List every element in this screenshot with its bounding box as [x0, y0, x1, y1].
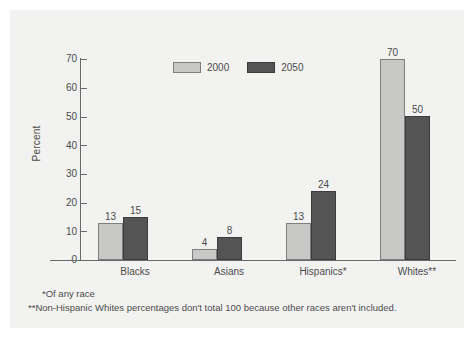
bar-whites-2050[interactable] — [405, 116, 430, 260]
bar-asians-2000[interactable] — [192, 249, 217, 261]
bar-value-asians-2000: 4 — [182, 237, 227, 248]
x-tick-label-whites: Whites** — [377, 266, 457, 277]
y-tick-label-70: 70 — [37, 54, 77, 64]
bar-value-blacks-2050: 15 — [113, 205, 158, 216]
bar-blacks-2000[interactable] — [98, 223, 123, 260]
x-tick-label-asians: Asians — [189, 266, 269, 277]
bar-value-hispanics-2050: 24 — [301, 179, 346, 190]
bar-value-hispanics-2000: 13 — [276, 211, 321, 222]
chart-figure: 2000 2050 Percent 70 60 50 40 30 20 10 0… — [10, 10, 464, 328]
y-tick-label-10: 10 — [37, 227, 77, 237]
bar-hispanics-2000[interactable] — [286, 223, 311, 260]
plot-area: 13 15 4 8 13 24 70 50 — [80, 59, 455, 260]
x-axis-line — [50, 260, 456, 261]
bar-value-whites-2000: 70 — [370, 47, 415, 58]
y-tick-label-60: 60 — [37, 83, 77, 93]
y-tick-label-20: 20 — [37, 198, 77, 208]
y-tick-group-20: 20 — [32, 198, 77, 208]
footnote-of-any-race: *Of any race — [42, 287, 458, 301]
y-tick-group-40: 40 — [32, 141, 77, 151]
bar-hispanics-2050[interactable] — [311, 191, 336, 260]
y-tick-group-70: 70 — [32, 54, 77, 64]
y-tick-label-50: 50 — [37, 112, 77, 122]
y-tick-label-30: 30 — [37, 169, 77, 179]
bar-value-asians-2050: 8 — [207, 225, 252, 236]
bar-whites-2000[interactable] — [380, 59, 405, 260]
x-tick-label-blacks: Blacks — [95, 266, 175, 277]
footnote-non-hispanic-whites: **Non-Hispanic Whites percentages don't … — [28, 301, 458, 315]
footnotes: *Of any race **Non-Hispanic Whites perce… — [28, 287, 458, 315]
y-tick-group-10: 10 — [32, 227, 77, 237]
bar-blacks-2050[interactable] — [123, 217, 148, 260]
bar-value-whites-2050: 50 — [395, 104, 440, 115]
y-tick-group-60: 60 — [32, 83, 77, 93]
y-tick-group-50: 50 — [32, 112, 77, 122]
x-tick-label-hispanics: Hispanics* — [283, 266, 363, 277]
y-tick-group-30: 30 — [32, 169, 77, 179]
y-tick-label-40: 40 — [37, 141, 77, 151]
